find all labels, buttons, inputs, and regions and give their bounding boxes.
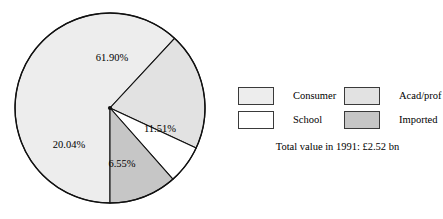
legend-swatch-acad-prof[interactable] (344, 87, 380, 105)
legend-label-acad-prof: Acad/prof (398, 90, 443, 102)
slice-label-school: 6.55% (108, 158, 135, 169)
legend-swatch-imported[interactable] (344, 111, 380, 129)
chart-legend: Consumer Acad/prof School Imported Total… (238, 84, 443, 152)
legend-swatch-consumer[interactable] (238, 87, 274, 105)
pie-center-dot (108, 106, 112, 110)
legend-swatch-school[interactable] (238, 111, 274, 129)
total-value-caption: Total value in 1991: £2.52 bn (238, 141, 443, 152)
pie-chart-figure: 61.90% 20.04% 6.55% 11.51% Consumer Acad… (0, 0, 443, 219)
legend-grid: Consumer Acad/prof School Imported (238, 84, 443, 132)
slice-label-consumer: 61.90% (96, 52, 129, 63)
legend-label-consumer: Consumer (292, 90, 344, 102)
legend-label-school: School (292, 114, 344, 126)
slice-label-imported: 11.51% (144, 123, 176, 134)
slice-label-acad-prof: 20.04% (53, 139, 86, 150)
legend-label-imported: Imported (398, 114, 443, 126)
